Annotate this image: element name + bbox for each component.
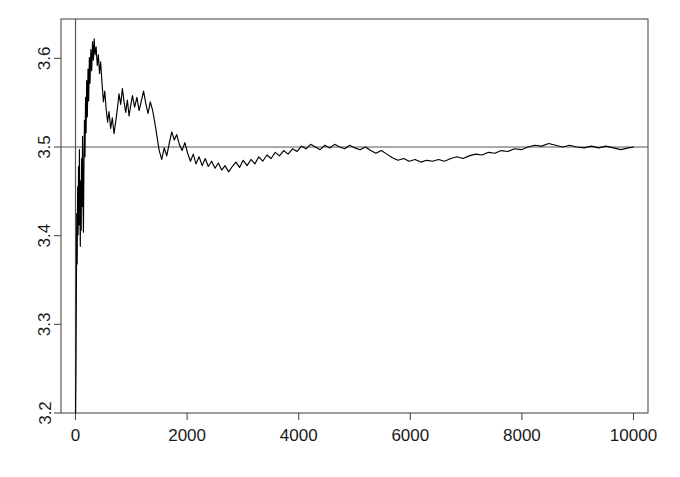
x-tick-label-6000: 6000 [391,426,429,445]
x-tick-label-0: 0 [71,426,80,445]
figure-background [0,0,680,477]
x-tick-label-10000: 10000 [610,426,657,445]
y-tick-label-3.2: 3.2 [36,401,55,425]
x-tick-label-8000: 8000 [503,426,541,445]
y-tick-label-3.4: 3.4 [36,224,55,248]
y-tick-label-3.6: 3.6 [36,47,55,71]
x-tick-label-2000: 2000 [168,426,206,445]
y-tick-label-3.3: 3.3 [36,313,55,337]
plot-canvas: 0200040006000800010000 3.23.33.43.53.6 [0,0,680,477]
x-tick-label-4000: 4000 [280,426,318,445]
y-tick-label-3.5: 3.5 [36,135,55,159]
chart-figure: 0200040006000800010000 3.23.33.43.53.6 [0,0,680,477]
